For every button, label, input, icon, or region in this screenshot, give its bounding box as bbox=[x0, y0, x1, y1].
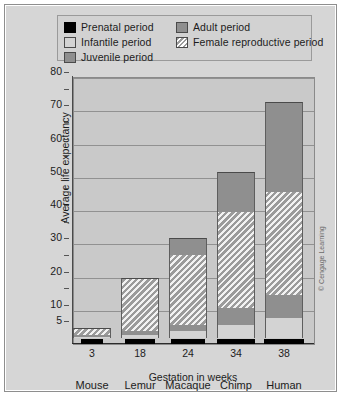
legend-swatch-female-reproductive bbox=[176, 37, 188, 48]
bar-segment-repro bbox=[169, 255, 207, 325]
y-tick bbox=[64, 205, 69, 206]
legend-label-female-reproductive: Female reproductive period bbox=[193, 36, 323, 48]
gestation-label-chimp: 34 bbox=[211, 347, 261, 359]
y-minor-tick bbox=[64, 89, 69, 90]
bar-macaque bbox=[169, 238, 207, 338]
legend-label-prenatal: Prenatal period bbox=[81, 21, 154, 33]
y-minor-tick bbox=[64, 255, 69, 256]
legend-swatch-adult bbox=[176, 22, 188, 33]
bar-segment-juvenile bbox=[169, 325, 207, 332]
y-tick bbox=[64, 72, 69, 73]
legend-item-infantile: Infantile period bbox=[64, 35, 154, 49]
chart-legend: Prenatal period Infantile period Juvenil… bbox=[57, 15, 312, 61]
legend-column-right: Adult period Female reproductive period bbox=[176, 20, 323, 50]
legend-item-prenatal: Prenatal period bbox=[64, 20, 154, 34]
bar-chimp bbox=[217, 172, 255, 338]
bar-segment-repro bbox=[121, 278, 159, 331]
bar-segment-juvenile bbox=[217, 308, 255, 325]
legend-swatch-infantile bbox=[64, 37, 76, 48]
legend-item-adult: Adult period bbox=[176, 20, 323, 34]
y-tick bbox=[64, 105, 69, 106]
bar-segment-repro bbox=[217, 212, 255, 308]
y-tick-label: 20 bbox=[40, 265, 62, 277]
bar-mouse bbox=[73, 328, 111, 338]
y-minor-tick bbox=[64, 155, 69, 156]
bar-segment-juvenile bbox=[121, 331, 159, 335]
gridline bbox=[74, 78, 314, 79]
legend-swatch-prenatal bbox=[64, 22, 76, 33]
legend-label-juvenile: Juvenile period bbox=[81, 51, 153, 63]
y-tick bbox=[64, 172, 69, 173]
legend-label-adult: Adult period bbox=[193, 21, 250, 33]
y-minor-tick bbox=[64, 122, 69, 123]
prenatal-bar-human bbox=[264, 339, 304, 344]
y-tick-label: 40 bbox=[40, 198, 62, 210]
legend-column-left: Prenatal period Infantile period Juvenil… bbox=[64, 20, 154, 65]
legend-item-juvenile: Juvenile period bbox=[64, 50, 154, 64]
y-tick bbox=[64, 139, 69, 140]
legend-label-infantile: Infantile period bbox=[81, 36, 151, 48]
bar-human bbox=[265, 102, 303, 338]
bar-lemur bbox=[121, 278, 159, 338]
y-axis-line bbox=[72, 76, 73, 344]
gestation-label-mouse: 3 bbox=[67, 347, 117, 359]
bar-segment-infantile bbox=[169, 331, 207, 338]
bar-segment-repro bbox=[73, 328, 111, 335]
gestation-label-human: 38 bbox=[259, 347, 309, 359]
prenatal-bar-mouse bbox=[81, 339, 103, 344]
bar-segment-juvenile bbox=[73, 335, 111, 336]
y-tick bbox=[64, 305, 69, 306]
bar-segment-infantile bbox=[121, 335, 159, 338]
y-minor-tick bbox=[64, 222, 69, 223]
bar-segment-infantile bbox=[265, 318, 303, 338]
x-axis-title: Gestation in weeks bbox=[73, 371, 313, 383]
y-tick bbox=[64, 321, 69, 322]
legend-item-female-reproductive: Female reproductive period bbox=[176, 35, 323, 49]
prenatal-bar-lemur bbox=[125, 339, 155, 344]
y-tick-label: 60 bbox=[40, 132, 62, 144]
chart-figure: Prenatal period Infantile period Juvenil… bbox=[0, 0, 343, 398]
chart-panel: Prenatal period Infantile period Juvenil… bbox=[4, 4, 337, 392]
bar-segment-repro bbox=[265, 192, 303, 295]
bar-segment-juvenile bbox=[265, 295, 303, 318]
prenatal-bar-macaque bbox=[171, 339, 205, 344]
y-tick-label: 80 bbox=[40, 65, 62, 77]
y-tick-label: 50 bbox=[40, 165, 62, 177]
prenatal-bar-chimp bbox=[217, 339, 255, 344]
legend-swatch-juvenile bbox=[64, 52, 76, 63]
y-tick-label: 10 bbox=[40, 298, 62, 310]
y-tick bbox=[64, 238, 69, 239]
y-tick-label: 30 bbox=[40, 231, 62, 243]
y-tick-label: 70 bbox=[40, 98, 62, 110]
y-minor-tick bbox=[64, 288, 69, 289]
gestation-label-macaque: 24 bbox=[163, 347, 213, 359]
bar-segment-infantile bbox=[73, 337, 111, 338]
y-minor-tick bbox=[64, 188, 69, 189]
bar-segment-adult bbox=[217, 172, 255, 212]
bar-segment-adult bbox=[169, 238, 207, 255]
gestation-label-lemur: 18 bbox=[115, 347, 165, 359]
bar-segment-adult bbox=[265, 102, 303, 192]
y-tick-label: 5 bbox=[40, 314, 62, 326]
bar-segment-infantile bbox=[217, 325, 255, 338]
copyright-credit: © Cengage Learning bbox=[318, 221, 325, 291]
y-tick bbox=[64, 272, 69, 273]
